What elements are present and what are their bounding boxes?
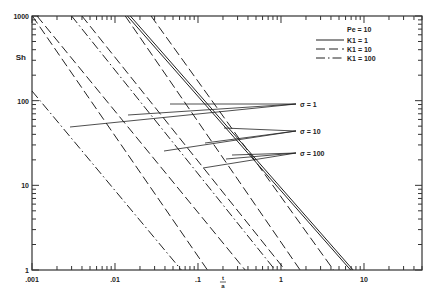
x-axis-label-denominator: a [221, 283, 225, 289]
log-log-chart: .001.01.11101101001000Shta σ = 1σ = 10σ … [0, 0, 437, 299]
legend-header: Pe = 10 [347, 26, 371, 33]
series-line [125, 16, 300, 270]
annotation-label: σ = 10 [300, 128, 321, 135]
legend-label: K1 = 100 [347, 55, 376, 62]
x-tick-label: .1 [195, 276, 201, 283]
annotation-leaders: σ = 1σ = 10σ = 100 [70, 101, 325, 168]
annotation-leader [70, 104, 296, 127]
y-tick-label: 1 [25, 267, 29, 274]
x-tick-label: 10 [360, 276, 368, 283]
x-axis-label-numerator: t [222, 275, 224, 281]
y-tick-label: 1000 [13, 13, 29, 20]
x-tick-label: 1 [279, 276, 283, 283]
series-lines [32, 16, 353, 270]
annotation-label: σ = 100 [300, 150, 325, 157]
x-tick-label: .001 [25, 276, 39, 283]
series-line [127, 16, 350, 270]
series-line [37, 16, 245, 270]
y-tick-label: 10 [21, 182, 29, 189]
legend: Pe = 10K1 = 1K1 = 10K1 = 100 [316, 26, 376, 62]
y-axis-label: Sh [16, 53, 26, 62]
legend-label: K1 = 1 [347, 37, 368, 44]
series-line [32, 16, 207, 270]
series-line [151, 16, 334, 270]
series-line [72, 16, 276, 270]
annotation-leader [164, 131, 296, 151]
x-tick-label: .01 [110, 276, 120, 283]
y-tick-label: 100 [17, 98, 29, 105]
annotation-leader [128, 104, 296, 115]
series-line [82, 16, 285, 270]
annotation-leader [224, 128, 296, 131]
annotation-label: σ = 1 [300, 101, 317, 108]
legend-label: K1 = 10 [347, 46, 372, 53]
